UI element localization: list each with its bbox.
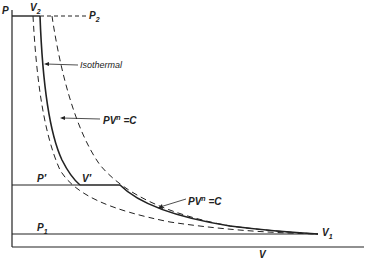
- p2-label: P2: [89, 11, 100, 25]
- isothermal-curve: [33, 16, 318, 234]
- pvn-upper-label: PVn =C: [103, 113, 136, 126]
- v-prime-label: V′: [82, 174, 91, 184]
- p-prime-label: P′: [37, 174, 46, 184]
- polytropic-curve-stage-high: [40, 16, 80, 185]
- pvn-upper-arrow: [62, 118, 100, 119]
- p1-label: P1: [37, 223, 48, 237]
- v1-label: V1: [322, 228, 333, 242]
- polytropic-single-stage-curve: [52, 16, 318, 234]
- y-axis-label: P: [2, 6, 9, 16]
- polytropic-curve-stage-low: [120, 185, 318, 234]
- v2-label: V2: [30, 3, 41, 17]
- pvn-upper-arrowhead: [60, 116, 65, 120]
- pvn-lower-arrow: [160, 199, 186, 207]
- isothermal-arrow: [46, 64, 78, 65]
- x-axis-label: V: [259, 250, 266, 260]
- pvn-lower-label: PVn =C: [188, 194, 221, 207]
- isothermal-label: Isothermal: [80, 60, 122, 70]
- isothermal-arrowhead: [44, 62, 49, 66]
- pv-diagram-canvas: [0, 0, 368, 264]
